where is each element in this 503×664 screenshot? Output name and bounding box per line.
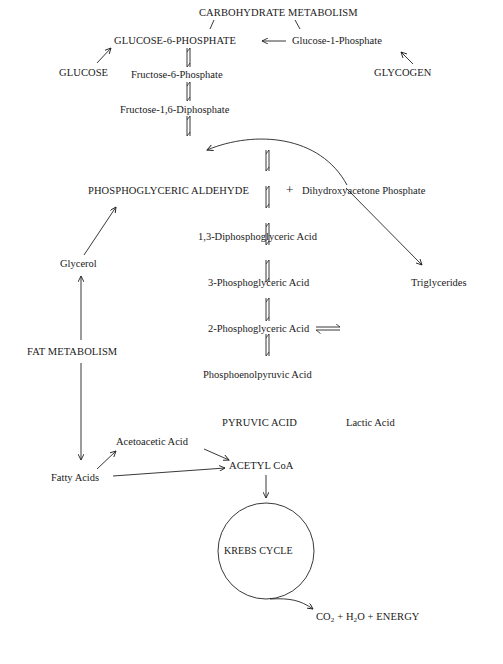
reversible-dpga-3pga <box>266 186 269 208</box>
node-glucose-6-phosphate: GLUCOSE-6-PHOSPHATE <box>114 35 236 47</box>
node-triglycerides: Triglycerides <box>411 277 467 289</box>
reversible-f6p-f16dp <box>187 82 190 101</box>
node-fructose-6-phosphate: Fructose-6-Phosphate <box>131 69 223 81</box>
reversible-pyruvic-lactic <box>316 327 340 330</box>
node-glucose-1-phosphate: Glucose-1-Phosphate <box>292 35 382 47</box>
node-fatty-acids: Fatty Acids <box>51 472 99 484</box>
node-fructose-1-6-diphosphate: Fructose-1,6-Diphosphate <box>120 104 229 116</box>
arrow-acetoacetic-to-acetyl <box>204 449 229 460</box>
node-1-3-diphosphoglyceric-acid: 1,3-Diphosphoglyceric Acid <box>198 231 317 243</box>
arrow-dhap-to-pga <box>207 139 347 185</box>
arrow-glycogen-to-g1p <box>401 52 413 64</box>
node-glycerol: Glycerol <box>60 258 97 270</box>
node-fat-metabolism: FAT METABOLISM <box>27 346 117 358</box>
line-carb-to-g6p <box>210 20 214 29</box>
node-glycogen: GLYCOGEN <box>374 67 432 79</box>
line-carb-to-g1p <box>295 20 300 29</box>
node-krebs-cycle: KREBS CYCLE <box>224 545 293 557</box>
energy-text: O + ENERGY <box>357 611 419 622</box>
node-products: CO2 + H2O + ENERGY <box>316 611 420 626</box>
reversible-g6p-f6p <box>187 48 190 67</box>
node-lactic-acid: Lactic Acid <box>346 417 395 429</box>
reversible-pyruvic-acetyl <box>266 334 269 356</box>
arrow-glucose-to-g6p <box>97 48 111 63</box>
reversible-pga-dpga <box>266 150 269 171</box>
node-2-phosphoglyceric-acid: 2-Phosphoglyceric Acid <box>208 323 309 335</box>
arrow-fatty-to-acetoacetic <box>97 451 116 469</box>
node-pyruvic-acid: PYRUVIC ACID <box>222 417 297 429</box>
arrow-dhap-to-triglycerides <box>346 188 422 265</box>
arrow-fatty-to-acetyl <box>113 468 225 476</box>
reversible-pep-pyruvic <box>266 298 269 321</box>
arrow-glycerol-to-pga <box>84 207 116 255</box>
arrow-krebs-to-products <box>270 599 313 609</box>
node-dihydroxyacetone-phosphate: Dihydroxyacetone Phosphate <box>302 185 425 197</box>
reversible-f16dp-pga <box>187 116 190 136</box>
node-3-phosphoglyceric-acid: 3-Phosphoglyceric Acid <box>208 277 309 289</box>
node-phosphoenolpyruvic-acid: Phosphoenolpyruvic Acid <box>203 369 312 381</box>
plus-sign: + <box>286 184 293 196</box>
h2o-text: + H <box>334 611 353 622</box>
node-acetyl-coa: ACETYL CoA <box>229 460 293 472</box>
co2-text: CO <box>316 611 331 622</box>
node-glucose: GLUCOSE <box>59 67 108 79</box>
node-acetoacetic-acid: Acetoacetic Acid <box>116 436 188 448</box>
node-carbohydrate-metabolism: CARBOHYDRATE METABOLISM <box>199 7 358 19</box>
node-phosphoglyceric-aldehyde: PHOSPHOGLYCERIC ALDEHYDE <box>88 185 249 197</box>
